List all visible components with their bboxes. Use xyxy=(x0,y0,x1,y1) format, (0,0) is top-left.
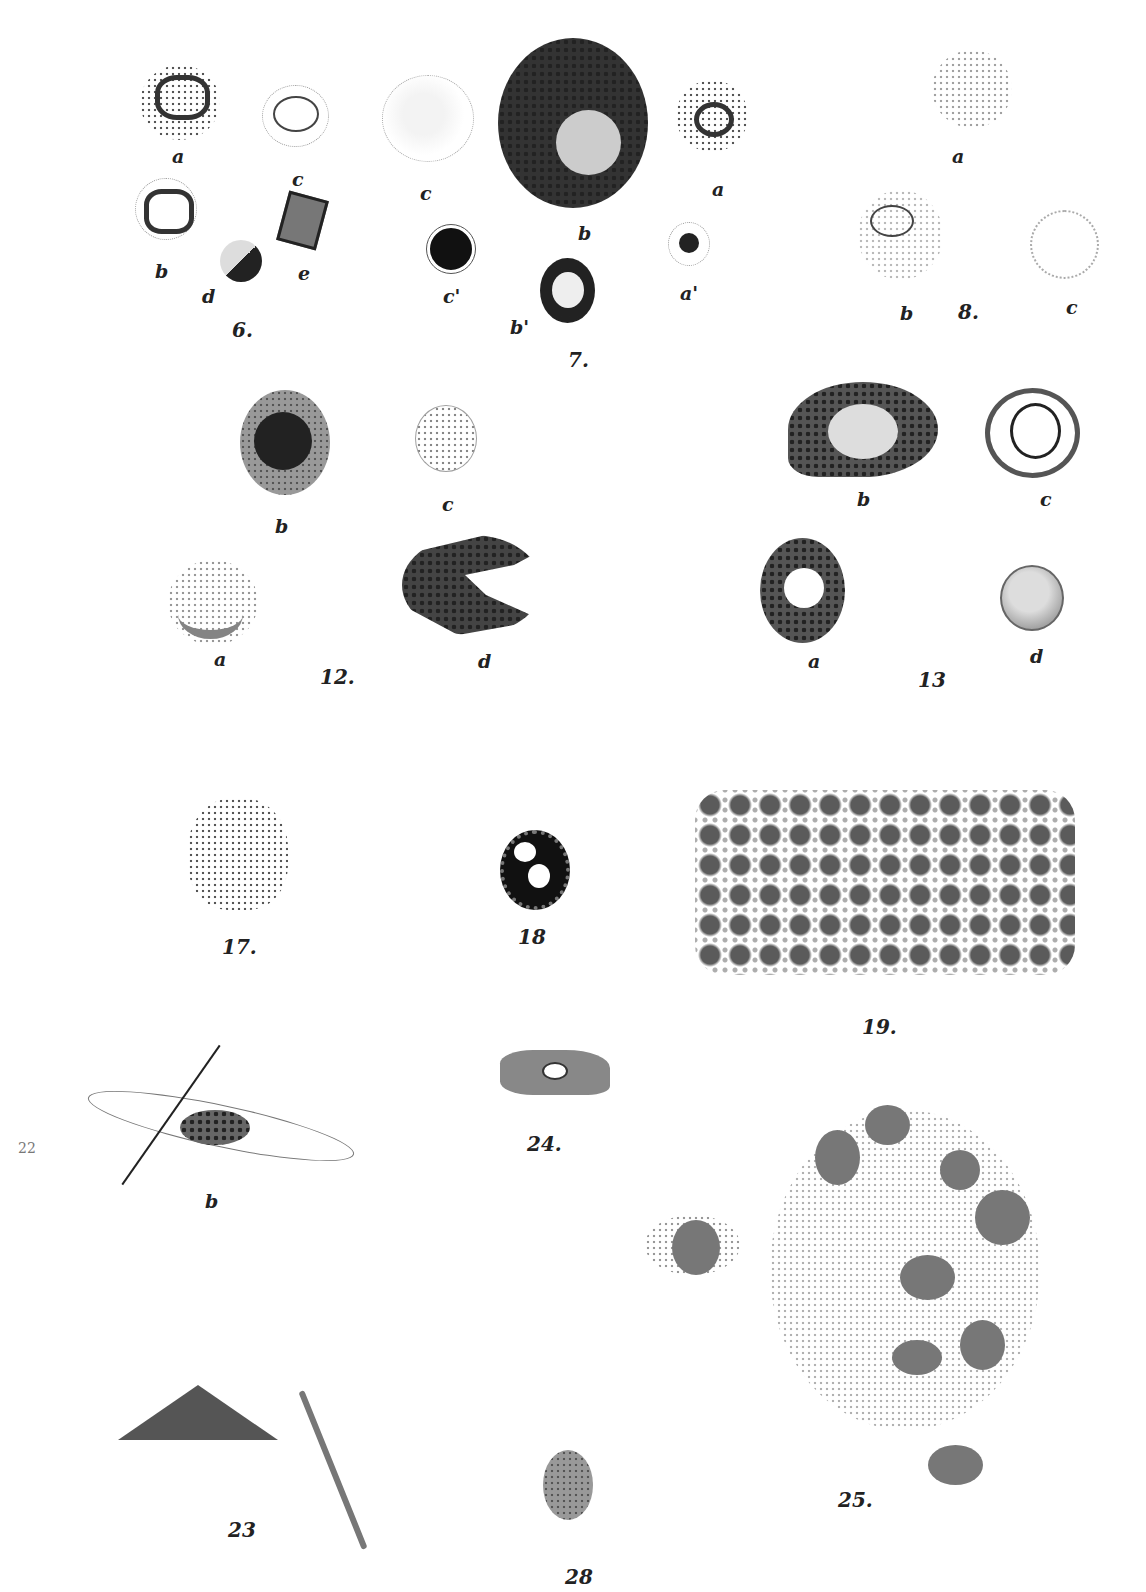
figure-number-8: 8. xyxy=(958,300,979,324)
cell-6e xyxy=(276,191,329,251)
label-7c-prime: c' xyxy=(443,285,460,307)
nucleus-22 xyxy=(180,1110,250,1145)
cell-18 xyxy=(500,830,570,910)
nucleus-25-a xyxy=(815,1130,860,1185)
cell-7a xyxy=(676,80,748,152)
label-6b: b xyxy=(155,260,168,282)
figure-number-7: 7. xyxy=(568,348,589,372)
nucleus-25-d xyxy=(975,1190,1030,1245)
cell-7c xyxy=(382,75,474,162)
cell-7b-prime xyxy=(540,258,595,323)
cell-13b xyxy=(788,382,938,477)
figure-number-24: 24. xyxy=(527,1132,562,1156)
cell-23 xyxy=(118,1385,278,1440)
nucleus-25-g xyxy=(892,1340,942,1375)
cell-28 xyxy=(543,1450,593,1520)
figure-number-19: 19. xyxy=(862,1015,897,1039)
nucleus-25-left xyxy=(672,1220,720,1275)
cell-8b-nucleus xyxy=(870,205,914,237)
label-6e: e xyxy=(298,262,310,284)
figure-number-12: 12. xyxy=(320,665,355,689)
label-13a: a xyxy=(808,650,820,672)
cell-12c xyxy=(415,405,477,472)
cell-6a xyxy=(140,65,220,140)
cell-13d xyxy=(1000,565,1064,631)
figure-number-17: 17. xyxy=(222,935,257,959)
label-8a: a xyxy=(952,145,964,167)
cell-12b xyxy=(240,390,330,495)
label-7b: b xyxy=(578,222,591,244)
label-8c: c xyxy=(1066,296,1078,318)
nucleus-25-h xyxy=(928,1445,983,1485)
label-13d: d xyxy=(1030,645,1043,667)
cell-6c xyxy=(262,85,329,147)
figure-number-13: 13 xyxy=(918,668,946,692)
label-6a: a xyxy=(172,145,184,167)
cell-6b xyxy=(135,178,197,240)
cell-7c-prime xyxy=(427,225,475,273)
label-13b: b xyxy=(857,488,870,510)
cell-cluster-19 xyxy=(695,790,1075,975)
cell-13a xyxy=(760,538,845,643)
label-12b: b xyxy=(275,515,288,537)
label-7a-prime: a' xyxy=(680,282,698,304)
figure-number-6: 6. xyxy=(232,318,253,342)
cell-7a-prime xyxy=(668,222,710,266)
label-7c: c xyxy=(420,182,432,204)
label-8b: b xyxy=(900,302,913,324)
figure-number-28: 28 xyxy=(565,1565,593,1589)
figure-number-25: 25. xyxy=(838,1488,873,1512)
label-7b-prime: b' xyxy=(510,316,529,338)
cell-24 xyxy=(500,1050,610,1095)
label-12d: d xyxy=(478,650,491,672)
label-22b: b xyxy=(205,1190,218,1212)
nucleus-25-f xyxy=(960,1320,1005,1370)
nucleus-25-b xyxy=(865,1105,910,1145)
cell-12a xyxy=(168,560,258,645)
figure-number-23: 23 xyxy=(228,1518,256,1542)
figure-number-18: 18 xyxy=(518,925,546,949)
cell-8a xyxy=(932,50,1012,128)
cell-6d xyxy=(220,240,262,282)
cell-8c xyxy=(1030,210,1099,279)
nucleus-25-e xyxy=(900,1255,955,1300)
figure-number-22: 22 xyxy=(18,1140,36,1156)
cell-17 xyxy=(188,798,288,910)
label-13c: c xyxy=(1040,488,1052,510)
label-7a: a xyxy=(712,178,724,200)
cell-12d xyxy=(402,535,542,635)
nucleus-25-c xyxy=(940,1150,980,1190)
fiber-23 xyxy=(298,1390,367,1550)
label-6d: d xyxy=(202,285,215,307)
label-12c: c xyxy=(442,493,454,515)
label-6c: c xyxy=(292,168,304,190)
label-12a: a xyxy=(214,648,226,670)
cell-7b xyxy=(498,38,648,208)
cell-13c xyxy=(985,388,1080,478)
